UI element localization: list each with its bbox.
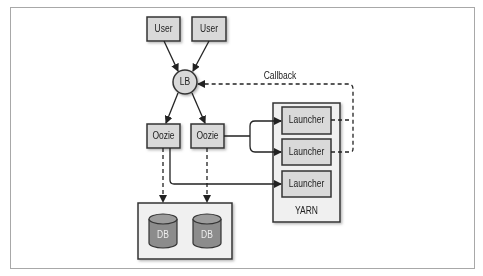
launcher2-label: Launcher — [286, 146, 328, 157]
launcher1-label: Launcher — [286, 114, 328, 125]
diagram-canvas — [0, 0, 483, 276]
edge-oozie1-launcher3 — [170, 148, 281, 184]
user2-label: User — [195, 23, 224, 34]
user1-label: User — [149, 23, 177, 34]
launcher3-label: Launcher — [286, 178, 328, 189]
db1-label: DB — [151, 229, 175, 240]
oozie1-label: Oozie — [149, 130, 177, 141]
oozie2-label: Oozie — [193, 130, 221, 141]
edge-lb-oozie1 — [166, 93, 178, 123]
edge-lb-oozie2 — [192, 93, 205, 123]
lb-label: LB — [175, 76, 195, 87]
edge-user2-lb — [193, 41, 209, 71]
edge-user1-lb — [164, 41, 178, 71]
db2-label: DB — [195, 229, 219, 240]
yarn-label: YARN — [278, 205, 335, 216]
callback-label: Callback — [259, 70, 302, 81]
